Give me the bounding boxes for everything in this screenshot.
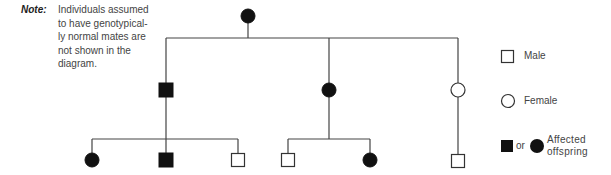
legend-male-label: Male xyxy=(524,50,546,62)
legend-affected-label: Affected offspring xyxy=(547,134,588,158)
individual-I1-affected-female xyxy=(241,9,255,23)
legend-female-icon xyxy=(502,95,515,108)
individual-III1-affected-female xyxy=(85,153,99,167)
legend-female-label: Female xyxy=(524,95,557,107)
individual-III3-unaffected-male xyxy=(232,154,245,167)
individual-II1-affected-male xyxy=(159,83,173,97)
legend-male-icon xyxy=(502,51,514,63)
individual-II2-affected-female xyxy=(322,83,336,97)
individual-III2-affected-male xyxy=(159,153,173,167)
pedigree-lines xyxy=(92,22,458,154)
legend-affected-male-icon xyxy=(501,140,513,152)
individual-III4-unaffected-male xyxy=(282,154,295,167)
legend-affected-line1: Affected xyxy=(547,134,586,145)
individual-III5-affected-female xyxy=(363,153,377,167)
individual-II3-unaffected-female xyxy=(451,83,465,97)
individual-III6-unaffected-male xyxy=(452,155,465,168)
legend-affected-female-icon xyxy=(530,139,544,153)
legend-affected-line2: offspring xyxy=(547,146,588,157)
legend-or-label: or xyxy=(516,140,525,152)
